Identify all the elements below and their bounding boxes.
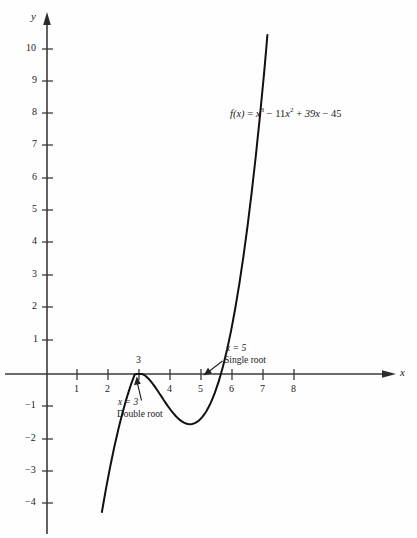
y-tick-label-8: 8 bbox=[32, 107, 37, 117]
double-root-annotation-line1: x = 3 bbox=[118, 398, 138, 408]
y-tick-label-neg3: −3 bbox=[25, 465, 36, 475]
double-root-equation: x = 3 bbox=[118, 397, 138, 407]
formula-term3: 39x bbox=[305, 108, 320, 119]
y-tick-label-3: 3 bbox=[32, 269, 37, 279]
x-tick-label-1: 1 bbox=[74, 384, 79, 394]
x-tick-label-7: 7 bbox=[260, 384, 265, 394]
y-axis-label: y bbox=[31, 11, 36, 22]
x-axis-arrowhead bbox=[382, 370, 396, 378]
formula-term4: 45 bbox=[331, 108, 342, 119]
single-root-annotation-line2: Single root bbox=[224, 356, 266, 366]
x-tick-label-6: 6 bbox=[229, 384, 234, 394]
x-tick-label-4: 4 bbox=[167, 384, 172, 394]
y-tick-label-10: 10 bbox=[26, 43, 36, 53]
y-tick-label-neg1: −1 bbox=[25, 400, 36, 410]
y-tick-label-2: 2 bbox=[32, 301, 37, 311]
y-tick-label-9: 9 bbox=[32, 75, 37, 85]
figure-canvas: 10 9 8 7 6 5 4 3 2 1 −1 −2 −3 −4 1 2 4 5… bbox=[0, 0, 417, 538]
y-tick-label-5: 5 bbox=[32, 204, 37, 214]
formula-arg: (x) bbox=[233, 108, 245, 119]
y-tick-label-neg4: −4 bbox=[25, 497, 36, 507]
single-root-equation: x = 5 bbox=[226, 343, 246, 353]
y-tick-label-7: 7 bbox=[32, 139, 37, 149]
y-tick-label-1: 1 bbox=[33, 334, 38, 344]
x-tick-label-2: 2 bbox=[105, 384, 110, 394]
formula-term2-coefficient: 11 bbox=[275, 108, 285, 119]
double-root-annotation-line2: Double root bbox=[117, 410, 163, 420]
y-tick-label-neg2: −2 bbox=[25, 433, 36, 443]
x-tick-label-8: 8 bbox=[291, 384, 296, 394]
x-tick-label-5: 5 bbox=[198, 384, 203, 394]
chart-plot-area bbox=[0, 0, 417, 538]
y-axis-arrowhead bbox=[43, 12, 51, 25]
x-axis-label: x bbox=[400, 367, 405, 378]
double-root-tick-label: 3 bbox=[136, 355, 141, 365]
y-tick-label-6: 6 bbox=[32, 172, 37, 182]
y-tick-label-4: 4 bbox=[32, 236, 37, 246]
formula-equals: = bbox=[247, 108, 253, 119]
function-expression-label: f(x) = x3 − 11x2 + 39x − 45 bbox=[230, 107, 342, 119]
single-root-annotation-line1: x = 5 bbox=[226, 344, 246, 354]
